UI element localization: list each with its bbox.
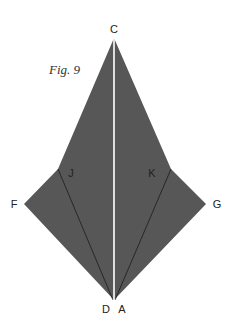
point-label-j: J: [68, 167, 74, 179]
point-label-g: G: [213, 198, 222, 210]
point-label-c: C: [110, 23, 118, 35]
point-label-a: A: [118, 303, 126, 315]
point-label-k: K: [148, 167, 156, 179]
origami-diagram: C D A F G J K Fig. 9: [0, 0, 234, 332]
point-label-f: F: [11, 198, 18, 210]
figure-caption: Fig. 9: [48, 62, 81, 77]
point-label-d: D: [102, 303, 110, 315]
diagram-shape-body: [24, 38, 206, 300]
